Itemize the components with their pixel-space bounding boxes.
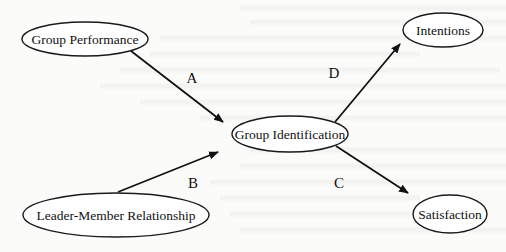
satisfaction-label: Satisfaction: [418, 207, 482, 222]
path-label-b: B: [188, 175, 198, 191]
group-performance-label: Group Performance: [32, 32, 139, 47]
node-group-identification: Group Identification: [232, 116, 348, 152]
path-label-d: D: [329, 65, 340, 81]
node-satisfaction: Satisfaction: [413, 195, 487, 233]
leader-member-relationship-label: Leader-Member Relationship: [36, 208, 195, 223]
intentions-label: Intentions: [416, 23, 470, 38]
node-intentions: Intentions: [403, 13, 483, 47]
node-group-performance: Group Performance: [22, 22, 148, 56]
node-leader-member-relationship: Leader-Member Relationship: [23, 193, 209, 237]
group-identification-label: Group Identification: [235, 127, 346, 142]
path-label-a: A: [187, 70, 198, 86]
path-label-c: C: [334, 175, 344, 191]
path-diagram: A B D C Group Performance Leader-Member …: [0, 0, 506, 252]
